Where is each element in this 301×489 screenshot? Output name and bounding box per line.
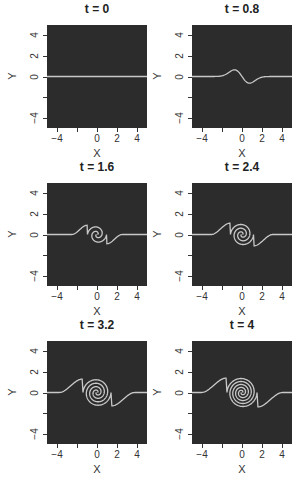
y-tick-label: 0 xyxy=(174,386,186,400)
panel-title: t = 2.4 xyxy=(192,160,292,174)
x-tick-label: 4 xyxy=(127,291,147,302)
x-tick-label: 4 xyxy=(272,133,292,144)
y-tick-mark xyxy=(43,276,47,277)
plot-panel-4: t = 3.2 Y X −4024420−4 xyxy=(0,316,150,476)
interface-curve xyxy=(47,341,147,444)
y-tick-mark xyxy=(43,255,47,256)
x-tick-mark xyxy=(97,128,98,132)
x-tick-label: 2 xyxy=(252,449,272,460)
y-tick-label: −4 xyxy=(174,111,186,125)
y-tick-mark xyxy=(188,56,192,57)
y-tick-mark xyxy=(188,393,192,394)
x-tick-mark xyxy=(57,444,58,448)
x-tick-mark xyxy=(282,128,283,132)
y-tick-label: 0 xyxy=(174,228,186,242)
y-tick-mark xyxy=(43,193,47,194)
y-axis-label: Y xyxy=(151,230,163,237)
y-tick-label: 2 xyxy=(29,49,41,63)
x-tick-mark xyxy=(242,128,243,132)
x-tick-mark xyxy=(117,128,118,132)
y-tick-mark xyxy=(188,413,192,414)
y-tick-mark xyxy=(43,97,47,98)
y-tick-label: −4 xyxy=(29,111,41,125)
interface-curve xyxy=(192,341,292,444)
plot-panel-2: t = 1.6 Y X −4024420−4 xyxy=(0,158,150,318)
y-tick-label: 0 xyxy=(29,70,41,84)
y-tick-mark xyxy=(43,393,47,394)
x-tick-mark xyxy=(222,286,223,290)
x-tick-mark xyxy=(282,444,283,448)
x-tick-mark xyxy=(262,286,263,290)
panel-title: t = 1.6 xyxy=(47,160,147,174)
x-tick-mark xyxy=(202,444,203,448)
y-tick-mark xyxy=(43,56,47,57)
x-tick-label: 2 xyxy=(252,291,272,302)
plot-area xyxy=(192,25,292,128)
plot-area xyxy=(47,183,147,286)
interface-curve xyxy=(47,183,147,286)
y-tick-label: 4 xyxy=(29,28,41,42)
y-tick-mark xyxy=(188,276,192,277)
x-tick-label: 4 xyxy=(127,133,147,144)
y-tick-mark xyxy=(43,118,47,119)
x-tick-mark xyxy=(77,128,78,132)
x-tick-mark xyxy=(242,444,243,448)
x-tick-mark xyxy=(117,286,118,290)
x-tick-label: −4 xyxy=(192,449,212,460)
y-tick-label: −4 xyxy=(174,269,186,283)
y-axis-label: Y xyxy=(6,230,18,237)
plot-panel-0: t = 0 Y X −4024420−4 xyxy=(0,0,150,160)
x-tick-mark xyxy=(222,444,223,448)
x-tick-label: 4 xyxy=(272,449,292,460)
y-axis-label: Y xyxy=(151,388,163,395)
plot-panel-3: t = 2.4 Y X −4024420−4 xyxy=(145,158,295,318)
plot-panel-1: t = 0.8 Y X −4024420−4 xyxy=(145,0,295,160)
y-tick-mark xyxy=(188,193,192,194)
x-tick-mark xyxy=(137,128,138,132)
plot-panel-5: t = 4 Y X −4024420−4 xyxy=(145,316,295,476)
panel-title: t = 0.8 xyxy=(192,2,292,16)
panel-title: t = 0 xyxy=(47,2,147,16)
y-tick-mark xyxy=(43,351,47,352)
x-tick-mark xyxy=(282,286,283,290)
y-tick-mark xyxy=(188,235,192,236)
x-tick-label: 0 xyxy=(232,133,252,144)
y-axis-label: Y xyxy=(151,72,163,79)
x-tick-label: 2 xyxy=(252,133,272,144)
y-tick-label: 2 xyxy=(174,365,186,379)
y-tick-mark xyxy=(188,434,192,435)
interface-curve xyxy=(47,25,147,128)
x-tick-label: 2 xyxy=(107,449,127,460)
y-tick-label: 0 xyxy=(29,228,41,242)
y-tick-mark xyxy=(188,118,192,119)
x-tick-mark xyxy=(77,286,78,290)
x-tick-mark xyxy=(262,444,263,448)
x-axis-label: X xyxy=(47,463,147,475)
y-tick-mark xyxy=(188,97,192,98)
x-tick-label: −4 xyxy=(47,449,67,460)
y-axis-label: Y xyxy=(6,72,18,79)
x-tick-label: −4 xyxy=(47,291,67,302)
y-tick-label: 4 xyxy=(29,344,41,358)
x-tick-mark xyxy=(242,286,243,290)
y-tick-mark xyxy=(188,35,192,36)
y-tick-label: 2 xyxy=(174,207,186,221)
x-tick-mark xyxy=(202,286,203,290)
x-tick-label: 0 xyxy=(232,291,252,302)
panel-title: t = 4 xyxy=(192,318,292,332)
y-tick-label: 4 xyxy=(174,186,186,200)
x-tick-mark xyxy=(262,128,263,132)
y-tick-mark xyxy=(43,372,47,373)
plot-area xyxy=(192,341,292,444)
y-tick-label: 0 xyxy=(29,386,41,400)
y-tick-mark xyxy=(43,434,47,435)
x-axis-label: X xyxy=(192,463,292,475)
x-tick-mark xyxy=(97,444,98,448)
y-tick-mark xyxy=(43,214,47,215)
x-tick-mark xyxy=(222,128,223,132)
x-tick-label: 2 xyxy=(107,291,127,302)
y-tick-mark xyxy=(188,214,192,215)
x-tick-mark xyxy=(202,128,203,132)
x-tick-mark xyxy=(137,286,138,290)
x-tick-label: 0 xyxy=(87,449,107,460)
